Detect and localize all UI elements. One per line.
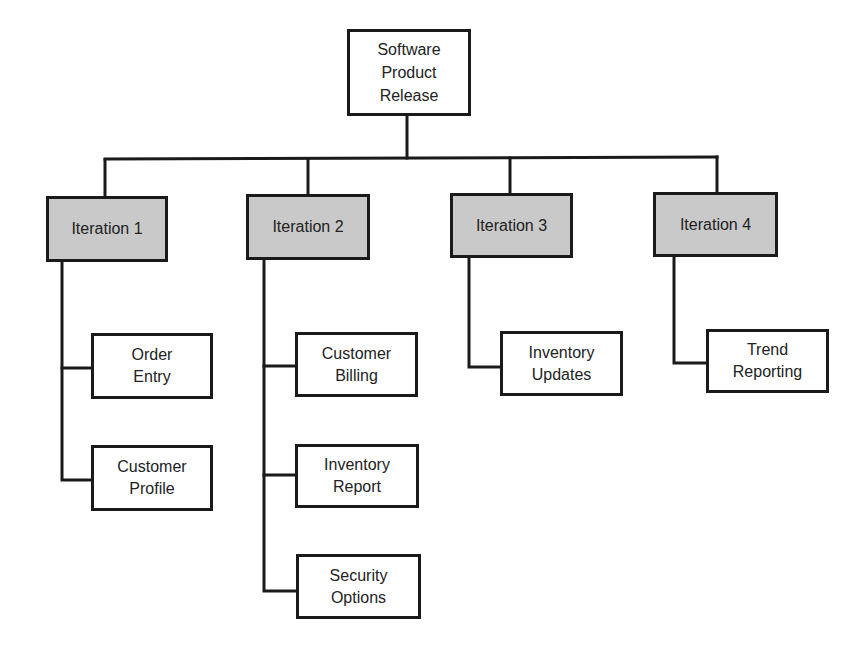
iteration-bus xyxy=(105,157,717,159)
iteration-2-trunk xyxy=(264,260,296,591)
iteration-3-node: Iteration 3 xyxy=(450,193,573,258)
iteration-3-label: Iteration 3 xyxy=(476,215,547,237)
customer-profile-node: Customer Profile xyxy=(91,445,213,511)
inventory-updates-node: Inventory Updates xyxy=(500,331,623,396)
iteration-3-trunk xyxy=(469,258,500,367)
iteration-1-node: Iteration 1 xyxy=(46,196,168,262)
iteration-2-node: Iteration 2 xyxy=(246,194,370,260)
inventory-report-label: Inventory Report xyxy=(324,454,390,498)
iteration-1-trunk xyxy=(62,262,91,480)
root-label: Software Product Release xyxy=(377,38,440,107)
customer-billing-label: Customer Billing xyxy=(322,343,391,387)
customer-profile-label: Customer Profile xyxy=(117,456,186,500)
customer-billing-node: Customer Billing xyxy=(295,332,418,397)
iteration-4-label: Iteration 4 xyxy=(680,214,751,236)
iteration-2-label: Iteration 2 xyxy=(272,216,343,238)
trend-reporting-node: Trend Reporting xyxy=(706,329,829,393)
root-node: Software Product Release xyxy=(347,29,471,116)
wbs-diagram: Software Product Release Iteration 1 Ite… xyxy=(0,0,867,659)
iteration-4-trunk xyxy=(674,257,706,363)
security-options-label: Security Options xyxy=(330,565,388,609)
order-entry-node: Order Entry xyxy=(91,333,213,399)
trend-reporting-label: Trend Reporting xyxy=(733,339,802,383)
iteration-1-label: Iteration 1 xyxy=(71,218,142,240)
iteration-4-node: Iteration 4 xyxy=(653,192,778,257)
inventory-updates-label: Inventory Updates xyxy=(529,342,595,386)
order-entry-label: Order Entry xyxy=(132,344,173,388)
security-options-node: Security Options xyxy=(296,554,421,619)
inventory-report-node: Inventory Report xyxy=(295,444,419,508)
